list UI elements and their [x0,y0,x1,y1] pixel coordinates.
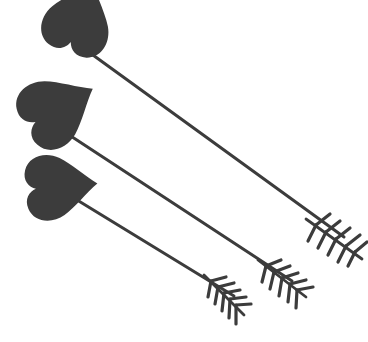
arrow-upper-shaft [86,50,344,237]
arrow-upper [86,50,367,266]
fletching-bottom [204,275,251,324]
arrows-illustration: Three Crossed Heart-Tipped Arrows Clipar… [0,0,368,342]
arrow-middle [57,127,313,308]
artwork-canvas: Three Crossed Heart-Tipped Arrows Clipar… [0,0,368,342]
fletching-lower-right [258,260,313,308]
fletching-right [306,214,367,266]
heart-arrowhead-middle [9,58,111,157]
arrow-lower [64,192,251,324]
arrows-group [9,0,367,324]
heart-arrowhead-top [35,0,124,63]
heart-arrowhead-bottom [23,151,100,223]
